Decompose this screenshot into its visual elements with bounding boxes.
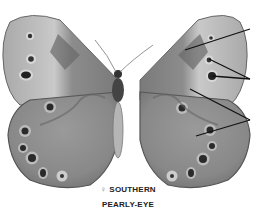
caption-species-line2: PEARLY-EYE [28, 200, 228, 209]
female-symbol: ♀ [100, 185, 106, 194]
caption-species-line1: ♀SOUTHERN [28, 185, 228, 194]
butterfly-illustration [0, 0, 258, 214]
thorax [112, 78, 124, 102]
antenna-right [120, 45, 153, 72]
butterfly-figure: ♀SOUTHERN PEARLY-EYE [0, 0, 258, 214]
abdomen [113, 102, 123, 158]
